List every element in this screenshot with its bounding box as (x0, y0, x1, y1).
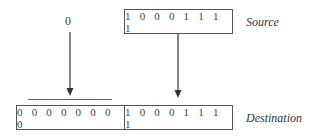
source-arrow (175, 34, 182, 98)
destination-high-bits: 0 0 0 0 0 0 0 0 (17, 106, 124, 130)
destination-high-half: 0 0 0 0 0 0 0 0 (16, 105, 125, 130)
destination-low-half: 1 0 0 0 1 1 1 1 (124, 105, 233, 130)
destination-label: Destination (246, 111, 302, 126)
destination-low-bits: 1 0 0 0 1 1 1 1 (125, 106, 232, 130)
fill-arrow (67, 32, 74, 96)
